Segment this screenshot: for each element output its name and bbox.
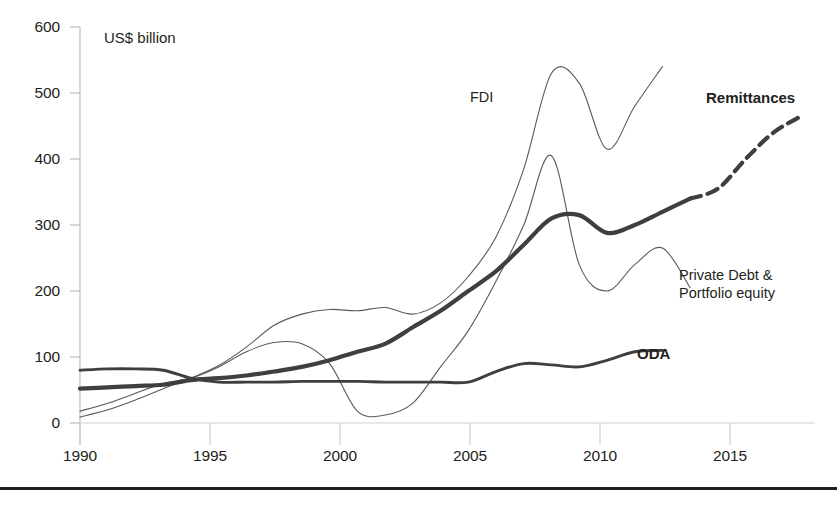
unit-note: US$ billion xyxy=(104,29,176,46)
y-tick-label-200: 200 xyxy=(16,282,60,300)
x-tick-label-2010: 2010 xyxy=(570,447,630,465)
chart-plot-area xyxy=(0,0,837,512)
x-tick-label-1995: 1995 xyxy=(180,447,240,465)
x-tick-label-2015: 2015 xyxy=(700,447,760,465)
y-axis xyxy=(70,27,80,445)
y-tick-label-100: 100 xyxy=(16,348,60,366)
series-path-remittances xyxy=(80,199,690,389)
x-tick-label-2000: 2000 xyxy=(310,447,370,465)
series-path-oda xyxy=(80,350,662,382)
series-label-remittances: Remittances xyxy=(706,89,795,106)
x-tick-label-1990: 1990 xyxy=(50,447,110,465)
y-tick-label-500: 500 xyxy=(16,84,60,102)
y-tick-label-0: 0 xyxy=(16,414,60,432)
series-layer xyxy=(80,67,801,417)
series-label-private-debt-line1: Private Debt & xyxy=(679,267,773,284)
chart-figure: 600 500 400 300 200 100 0 1990 1995 2000… xyxy=(0,0,837,512)
series-path-remittances-projection xyxy=(690,116,801,199)
x-axis xyxy=(80,423,815,445)
series-label-oda: ODA xyxy=(637,345,670,362)
series-path-private-debt-portfolio-equity xyxy=(80,155,690,417)
series-label-private-debt-line2: Portfolio equity xyxy=(679,285,775,302)
x-tick-label-2005: 2005 xyxy=(440,447,500,465)
series-label-fdi: FDI xyxy=(470,89,493,106)
series-path-fdi xyxy=(80,67,662,417)
y-tick-label-300: 300 xyxy=(16,216,60,234)
y-tick-label-600: 600 xyxy=(16,18,60,36)
y-tick-label-400: 400 xyxy=(16,150,60,168)
footer-divider-rule xyxy=(0,487,837,490)
